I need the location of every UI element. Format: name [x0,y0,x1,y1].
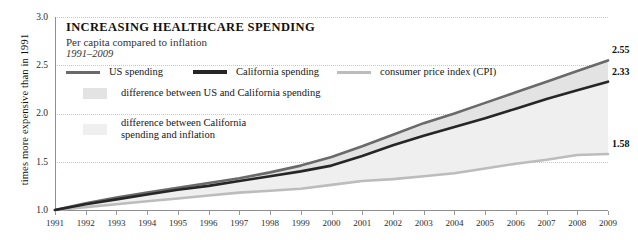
y-tick-2-5: 2.5 [22,60,48,70]
legend-line-california [193,70,227,74]
x-tickmark-2009 [608,211,609,215]
legend-item-band-us-ca: difference between US and California spe… [83,87,321,99]
legend-label-band-ca-cpi-line1: difference between California [121,117,246,128]
legend-line-cpi [337,71,371,74]
x-tickmark-1992 [86,211,87,215]
legend-label-california: California spending [236,66,319,78]
end-label-ca: 2.33 [612,66,630,77]
x-tickmark-2001 [362,211,363,215]
y-tick-3-0: 3.0 [22,12,48,22]
legend-label-us: US spending [109,66,163,78]
y-tick-1-5: 1.5 [22,157,48,167]
x-tickmark-1994 [147,211,148,215]
x-tickmark-2002 [393,211,394,215]
healthcare-spending-chart: times more expensive than in 1991 3.0 2.… [0,0,638,240]
legend-item-california: California spending [193,66,319,78]
legend-item-us: US spending [66,66,163,78]
chart-subtitle: Per capita compared to inflation [66,36,315,48]
legend-swatch-band-us-ca [83,88,107,99]
legend-item-band-ca-cpi: difference between California spending a… [83,117,246,142]
x-tickmark-1999 [301,211,302,215]
x-tickmark-2005 [485,211,486,215]
x-tickmark-2000 [332,211,333,215]
end-label-cpi: 1.58 [612,138,630,149]
y-tick-1-0: 1.0 [22,205,48,215]
legend-label-cpi: consumer price index (CPI) [380,66,496,78]
legend-label-band-ca-cpi-line2: spending and inflation [121,129,215,140]
legend-line-us [66,71,100,74]
legend-label-band-us-ca: difference between US and California spe… [121,87,321,99]
end-label-us: 2.55 [612,44,630,55]
x-tickmark-1991 [55,211,56,215]
y-tick-2-0: 2.0 [22,108,48,118]
x-tickmark-2007 [547,211,548,215]
x-tickmark-2004 [454,211,455,215]
x-tickmark-2008 [577,211,578,215]
x-tickmark-1998 [270,211,271,215]
legend-item-cpi: consumer price index (CPI) [337,66,496,78]
x-tickmark-1995 [178,211,179,215]
x-tick-label-2009: 2009 [588,218,628,228]
x-tickmark-1993 [116,211,117,215]
x-tickmark-2006 [516,211,517,215]
x-tickmark-1996 [209,211,210,215]
x-tickmark-1997 [239,211,240,215]
legend-label-band-ca-cpi: difference between California spending a… [121,117,246,142]
chart-title: INCREASING HEALTHCARE SPENDING [66,20,315,35]
x-tickmark-2003 [424,211,425,215]
chart-title-block: INCREASING HEALTHCARE SPENDING Per capit… [66,20,315,59]
chart-period: 1991–2009 [66,48,315,59]
legend-swatch-band-ca-cpi [83,124,107,135]
